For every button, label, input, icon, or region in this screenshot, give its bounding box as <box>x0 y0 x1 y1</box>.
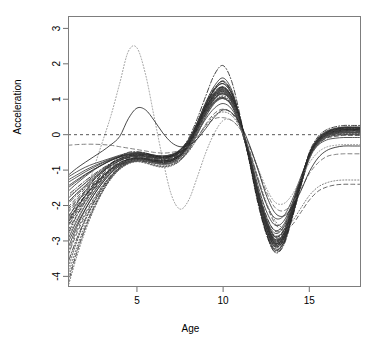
data-curve <box>68 81 361 250</box>
y-axis-label: Acceleration <box>12 121 23 135</box>
data-curve <box>68 99 361 280</box>
plot-curves <box>68 46 361 287</box>
y-axis-tick-label: -1 <box>52 165 63 174</box>
y-axis-tick-label: -3 <box>52 236 63 245</box>
data-curve <box>68 81 361 253</box>
y-axis-tick-label: 0 <box>52 131 63 137</box>
y-axis-tick-label: -4 <box>52 271 63 280</box>
axis-ticks <box>63 28 309 292</box>
x-axis-label: Age <box>0 323 381 334</box>
x-axis-tick-label: 5 <box>134 295 140 306</box>
plot-canvas: 51015-4-3-2-10123 <box>0 0 381 350</box>
plot-frame <box>69 17 361 287</box>
data-curve <box>68 99 361 270</box>
data-curve <box>68 97 361 283</box>
axis-tick-labels: 51015-4-3-2-10123 <box>52 25 316 306</box>
plot-box <box>69 17 361 287</box>
y-axis-tick-label: 2 <box>52 61 63 67</box>
data-curve <box>68 96 361 287</box>
x-axis-tick-label: 10 <box>218 295 230 306</box>
y-axis-tick-label: 3 <box>52 25 63 31</box>
y-axis-tick-label: 1 <box>52 96 63 102</box>
data-curve <box>68 112 361 227</box>
data-curve <box>68 97 361 274</box>
y-axis-tick-label: -2 <box>52 201 63 210</box>
data-curve <box>68 109 361 230</box>
data-curve <box>68 103 361 219</box>
data-curve <box>68 96 361 265</box>
data-curve <box>68 107 361 216</box>
growth-acceleration-figure: 51015-4-3-2-10123 Acceleration Age <box>0 0 381 350</box>
x-axis-tick-label: 15 <box>304 295 316 306</box>
data-curve <box>68 46 361 259</box>
